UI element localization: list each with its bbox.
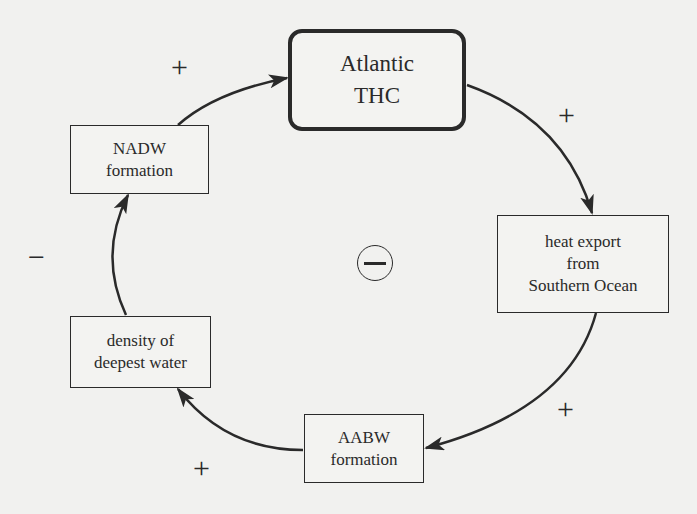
arrow-nadw-to-thc <box>178 78 287 125</box>
node-label-line: formation <box>330 449 397 471</box>
arrow-aabw-to-density <box>178 389 303 450</box>
polarity-aabw-density: + <box>193 453 210 483</box>
node-nadw-formation: NADW formation <box>70 125 209 194</box>
node-atlantic-thc: Atlantic THC <box>288 29 466 131</box>
node-label-line: Southern Ocean <box>528 275 637 297</box>
minus-icon <box>364 262 386 265</box>
arrow-heat-to-aabw <box>426 313 596 448</box>
node-label-line: AABW <box>338 427 390 449</box>
node-label-line: NADW <box>113 138 166 160</box>
node-aabw-formation: AABW formation <box>304 414 424 483</box>
polarity-nadw-thc: + <box>171 52 188 82</box>
node-density-deepest-water: density of deepest water <box>70 316 211 388</box>
polarity-heat-aabw: + <box>557 394 574 424</box>
polarity-density-nadw: − <box>28 242 45 272</box>
arrow-density-to-nadw <box>112 195 128 315</box>
loop-polarity-negative-icon <box>357 245 393 281</box>
node-label-line: deepest water <box>94 352 187 374</box>
node-label-line: density of <box>107 330 175 352</box>
node-label-line: Atlantic <box>340 48 414 80</box>
node-heat-export: heat export from Southern Ocean <box>497 215 669 313</box>
polarity-thc-heat: + <box>558 100 575 130</box>
node-label-line: formation <box>106 160 173 182</box>
node-label-line: THC <box>354 80 400 112</box>
node-label-line: heat export <box>545 231 621 253</box>
node-label-line: from <box>566 253 599 275</box>
